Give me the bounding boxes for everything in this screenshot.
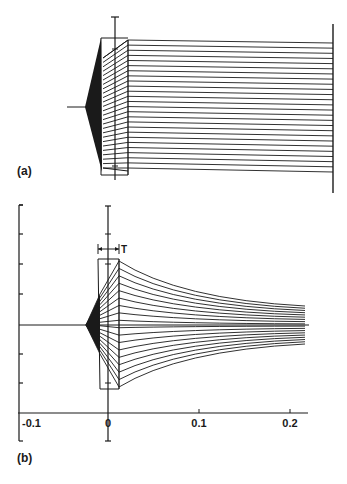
ray-collimated <box>128 148 333 152</box>
x-tick-label: 0.1 <box>191 417 206 429</box>
arrow-head <box>115 247 119 251</box>
ray-collimated <box>128 117 333 121</box>
ray-collimated <box>128 153 333 157</box>
ray-collimated <box>128 142 333 146</box>
ray-collimated <box>128 91 333 94</box>
ray-output <box>119 326 305 328</box>
thickness-label: T <box>121 244 127 255</box>
ray-in-lens <box>100 320 119 322</box>
ray-collimated <box>128 107 333 111</box>
ray-collimated <box>128 81 333 84</box>
ray-in-lens <box>103 163 128 164</box>
ray-collimated <box>128 163 333 167</box>
ray-collimated <box>128 71 333 74</box>
ray-in-lens <box>100 336 119 350</box>
ray-output <box>119 328 305 335</box>
ray-cone <box>85 38 102 172</box>
x-tick-label: 0.2 <box>282 417 297 429</box>
panel-a-collimating-lens <box>67 17 333 193</box>
x-tick-label: -0.1 <box>22 417 41 429</box>
ray-collimated <box>128 40 333 43</box>
ray-output <box>119 283 305 312</box>
ray-collimated <box>128 127 333 131</box>
ray-in-lens <box>100 326 119 328</box>
ray-collimated <box>128 168 333 172</box>
ray-collimated <box>128 112 333 116</box>
ray-collimated <box>128 50 333 53</box>
panel-b-label: (b) <box>17 451 32 465</box>
panel-a-label: (a) <box>17 164 32 178</box>
ray-collimated <box>128 66 333 69</box>
ray-collimated <box>128 86 333 89</box>
ray-collimated <box>128 132 333 136</box>
ray-output <box>119 261 305 306</box>
ray-in-lens <box>100 298 119 312</box>
ray-collimated <box>128 55 333 58</box>
lens-ray-diagram: (a) (b) T -0.100.10.2 <box>0 0 347 484</box>
x-tick-label: 0 <box>105 417 111 429</box>
ray-collimated <box>128 96 333 99</box>
arrow-head <box>98 247 102 251</box>
ray-collimated <box>128 158 333 162</box>
panel-b-ray-trace-plot <box>18 205 309 441</box>
ray-collimated <box>128 101 333 104</box>
x-axis-tick-labels: -0.100.10.2 <box>22 417 298 429</box>
ray-collimated <box>128 76 333 79</box>
ray-collimated <box>128 45 333 48</box>
ray-collimated <box>128 137 333 141</box>
ray-collimated <box>128 122 333 126</box>
ray-collimated <box>128 60 333 63</box>
